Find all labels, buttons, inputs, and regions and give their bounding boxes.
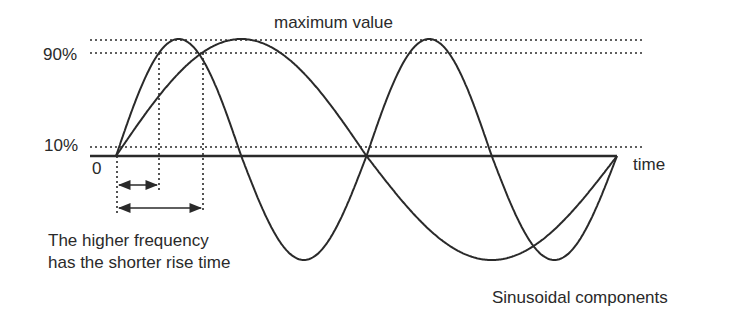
sinusoidal-components-label: Sinusoidal components	[492, 289, 668, 306]
time-axis-label: time	[633, 156, 665, 173]
ninety-percent-label: 90%	[43, 46, 77, 63]
low-frequency-curve	[116, 39, 617, 260]
diagram-canvas	[0, 0, 733, 328]
maximum-value-label: maximum value	[274, 14, 393, 31]
caption-line-1: The higher frequency	[48, 230, 209, 252]
caption-line-2: has the shorter rise time	[48, 252, 230, 274]
high-frequency-curve	[116, 39, 617, 260]
sinusoid-rise-time-diagram: maximum value 90% 10% 0 time The higher …	[0, 0, 733, 328]
origin-label: 0	[92, 160, 101, 177]
ten-percent-label: 10%	[44, 137, 78, 154]
